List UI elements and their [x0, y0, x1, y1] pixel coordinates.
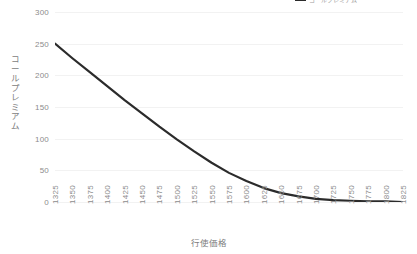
y-tick-label: 300 — [35, 8, 49, 17]
x-tick-label: 1650 — [277, 185, 286, 204]
y-tick-label: 150 — [35, 103, 49, 112]
x-tick-label: 1350 — [68, 185, 77, 204]
chart-legend: コールプレミアム — [295, 0, 357, 4]
y-tick-label: 250 — [35, 39, 49, 48]
x-tick-label: 1325 — [51, 185, 60, 204]
x-tick-label: 1775 — [364, 185, 373, 204]
x-axis-title: 行使価格 — [0, 236, 417, 248]
x-tick-label: 1600 — [242, 185, 251, 204]
y-tick-label: 200 — [35, 71, 49, 80]
x-tick-label: 1700 — [312, 185, 321, 204]
x-tick-label: 1750 — [346, 185, 355, 204]
x-tick-label: 1800 — [381, 185, 390, 204]
x-tick-label: 1475 — [155, 185, 164, 204]
x-axis-ticks: 1325 1350 1375 1400 1425 1450 1475 1500 … — [55, 204, 403, 238]
x-tick-label: 1825 — [399, 185, 408, 204]
x-tick-label: 1550 — [207, 185, 216, 204]
x-tick-label: 1375 — [85, 185, 94, 204]
x-tick-label: 1575 — [225, 185, 234, 204]
x-tick-label: 1425 — [120, 185, 129, 204]
x-tick-label: 1450 — [138, 185, 147, 204]
chart-container: コールプレミアム コールプレミアム 300 250 200 150 100 50… — [0, 0, 417, 254]
series-line-call-premium — [55, 44, 403, 202]
plot-area — [55, 12, 403, 202]
y-tick-label: 0 — [44, 198, 49, 207]
legend-label: コールプレミアム — [309, 0, 357, 4]
x-tick-label: 1525 — [190, 185, 199, 204]
series-svg — [55, 12, 403, 202]
y-axis-ticks: 300 250 200 150 100 50 0 — [0, 0, 55, 214]
x-tick-label: 1675 — [294, 185, 303, 204]
x-tick-label: 1625 — [259, 185, 268, 204]
legend-line-swatch — [295, 0, 306, 1]
y-tick-label: 100 — [35, 134, 49, 143]
x-tick-label: 1500 — [172, 185, 181, 204]
x-tick-label: 1725 — [329, 185, 338, 204]
x-tick-label: 1400 — [103, 185, 112, 204]
y-tick-label: 50 — [40, 166, 49, 175]
